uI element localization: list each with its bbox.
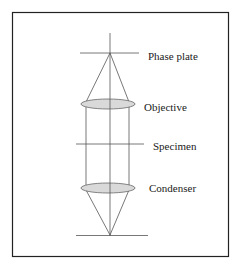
phase-contrast-diagram: Phase plate Objective Specimen Condenser [0, 0, 240, 272]
label-objective: Objective [144, 101, 187, 113]
objective-lens [81, 99, 135, 109]
condenser-lens [81, 183, 135, 193]
label-condenser: Condenser [149, 182, 196, 194]
label-phase-plate: Phase plate [148, 50, 198, 62]
label-specimen: Specimen [153, 140, 197, 152]
